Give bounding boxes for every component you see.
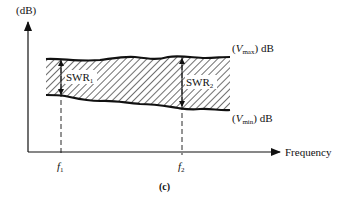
y-axis-label: (dB)	[16, 4, 37, 17]
f2-tick-label: f2	[178, 160, 185, 174]
figure-caption: (c)	[159, 181, 170, 193]
vmax-label: (Vmax) dB	[232, 42, 274, 56]
swr1-label: SWR1	[66, 71, 94, 85]
swr-diagram: (dB) Frequency SWR1 SWR2 (Vmax) dB (Vmin…	[0, 0, 341, 205]
f1-tick-label: f1	[57, 160, 64, 174]
swr2-label: SWR2	[186, 76, 214, 90]
vmin-label: (Vmin) dB	[232, 112, 273, 126]
x-axis-label: Frequency	[285, 146, 332, 158]
